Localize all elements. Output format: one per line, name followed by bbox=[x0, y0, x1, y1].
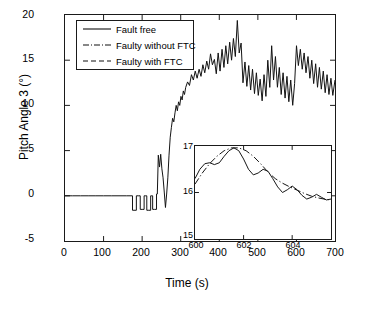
figure: 20 15 10 5 0 -5 0 100 200 300 400 500 60… bbox=[0, 0, 374, 313]
inset-y-tick-label: 16 bbox=[173, 187, 193, 196]
inset-y-tick-label: 17 bbox=[173, 142, 193, 151]
legend-label: Faulty with FTC bbox=[116, 56, 183, 67]
legend: Fault free Faulty without FTC Faulty wit… bbox=[76, 20, 194, 70]
y-axis-label: Pitch Angle 3 (°) bbox=[17, 27, 31, 207]
inset-series-faulty-without-ftc bbox=[195, 148, 331, 200]
inset-x-tick-label: 602 bbox=[229, 241, 259, 250]
legend-label: Fault free bbox=[116, 24, 156, 35]
legend-item-fault-free: Fault free bbox=[77, 21, 193, 37]
legend-label: Faulty without FTC bbox=[116, 40, 196, 51]
legend-item-faulty-with-ftc: Faulty with FTC bbox=[77, 53, 193, 69]
inset-tick-marks bbox=[195, 146, 331, 239]
y-tick-label: 20 bbox=[0, 9, 34, 19]
inset-x-tick-label: 604 bbox=[278, 241, 308, 250]
inset-x-tick-label: 600 bbox=[181, 241, 211, 250]
x-tick-label: 200 bbox=[121, 247, 161, 257]
x-tick-label: 0 bbox=[44, 247, 84, 257]
legend-line-solid bbox=[82, 23, 112, 35]
legend-line-dashed bbox=[82, 55, 112, 67]
legend-line-dash-dot bbox=[82, 39, 112, 51]
inset-plot-svg bbox=[195, 146, 331, 239]
x-axis-label: Time (s) bbox=[0, 276, 374, 290]
legend-item-faulty-without-ftc: Faulty without FTC bbox=[77, 37, 193, 53]
inset-y-tick-label: 15 bbox=[173, 231, 193, 240]
x-tick-label: 100 bbox=[82, 247, 122, 257]
y-tick-label: -5 bbox=[0, 233, 34, 243]
x-tick-label: 700 bbox=[315, 247, 355, 257]
inset-plot: 17 16 15 600 602 604 bbox=[194, 145, 332, 240]
inset-series-fault-free bbox=[195, 148, 331, 200]
